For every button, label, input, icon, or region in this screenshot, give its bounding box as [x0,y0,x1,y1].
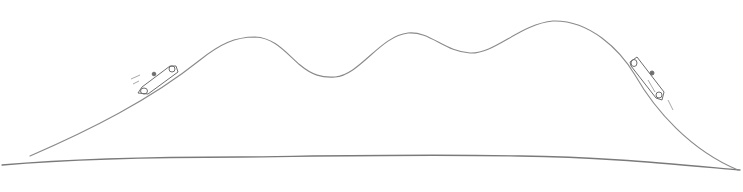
car-left-icon [131,66,178,94]
car-right-icon [630,57,673,110]
hill-track [30,21,738,170]
sketch-canvas [0,0,743,192]
coaster-sketch [0,0,743,192]
ground-line [2,155,740,170]
